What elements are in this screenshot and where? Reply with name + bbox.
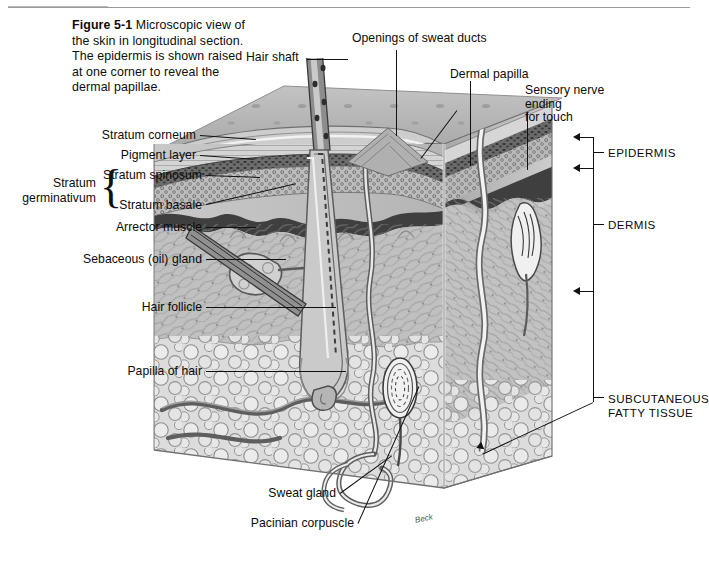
leader-sensory-nerve-ending — [527, 112, 528, 170]
label-pigment-layer: Pigment layer — [0, 148, 196, 162]
label-hair-shaft: Hair shaft — [246, 50, 299, 64]
bracket-dermis-tick — [593, 224, 604, 225]
bracket-dermis-bottom — [580, 291, 594, 292]
germinativum-line-1: Stratum — [53, 176, 96, 190]
skin-cross-section-illustration — [152, 58, 582, 528]
label-dermal-papilla: Dermal papilla — [450, 67, 529, 81]
label-sebaceous-gland: Sebaceous (oil) gland — [0, 252, 202, 266]
arrow-epidermis-top — [573, 133, 580, 141]
bracket-subcutaneous-vertical — [593, 292, 594, 402]
brace-stratum-germinativum: { — [100, 164, 122, 210]
label-arrector-muscle: Arrector muscle — [0, 220, 202, 234]
leader-arrector-muscle — [206, 227, 256, 228]
bracket-subcutaneous-tick — [593, 397, 604, 398]
bracket-epidermis-bottom — [580, 168, 594, 169]
subcutaneous-line-1: SUBCUTANEOUS — [608, 392, 709, 405]
label-sweat-gland: Sweat gland — [130, 486, 336, 500]
label-sensory-nerve-ending: Sensory nerve ending for touch — [525, 84, 630, 125]
arrow-epidermis-bottom — [573, 164, 580, 172]
germinativum-line-2: germinativum — [22, 191, 96, 205]
leader-sebaceous-gland — [206, 259, 286, 260]
label-stratum-corneum: Stratum corneum — [0, 128, 196, 142]
label-stratum-germinativum: Stratum germinativum — [0, 176, 96, 206]
right-side-face — [440, 96, 560, 496]
bracket-dermis-vertical — [593, 169, 594, 292]
leader-papilla-of-hair — [206, 371, 346, 372]
label-hair-follicle: Hair follicle — [0, 300, 202, 314]
label-dermis: DERMIS — [608, 218, 656, 232]
sensory-line-2: for touch — [525, 110, 573, 124]
label-pacinian-corpuscle: Pacinian corpuscle — [130, 516, 354, 530]
leader-openings-of-sweat-ducts-vertical — [396, 50, 397, 136]
label-epidermis: EPIDERMIS — [608, 146, 676, 160]
figure-number: Figure 5-1 — [72, 18, 132, 32]
leader-hair-follicle — [206, 307, 336, 308]
label-papilla-of-hair: Papilla of hair — [0, 364, 202, 378]
sensory-line-1: Sensory nerve ending — [525, 83, 604, 111]
label-subcutaneous-fatty-tissue: SUBCUTANEOUS FATTY TISSUE — [608, 392, 696, 420]
sweat-duct-side — [479, 128, 485, 452]
subcutaneous-line-2: FATTY TISSUE — [608, 406, 693, 419]
label-openings-of-sweat-ducts: Openings of sweat ducts — [352, 31, 487, 45]
leader-hair-shaft — [307, 59, 348, 60]
bracket-epidermis-top — [580, 137, 594, 138]
top-rule — [8, 7, 690, 8]
leader-dermal-papilla — [470, 81, 471, 166]
bracket-epidermis-tick — [593, 152, 604, 153]
arrow-dermis-bottom — [573, 287, 580, 295]
